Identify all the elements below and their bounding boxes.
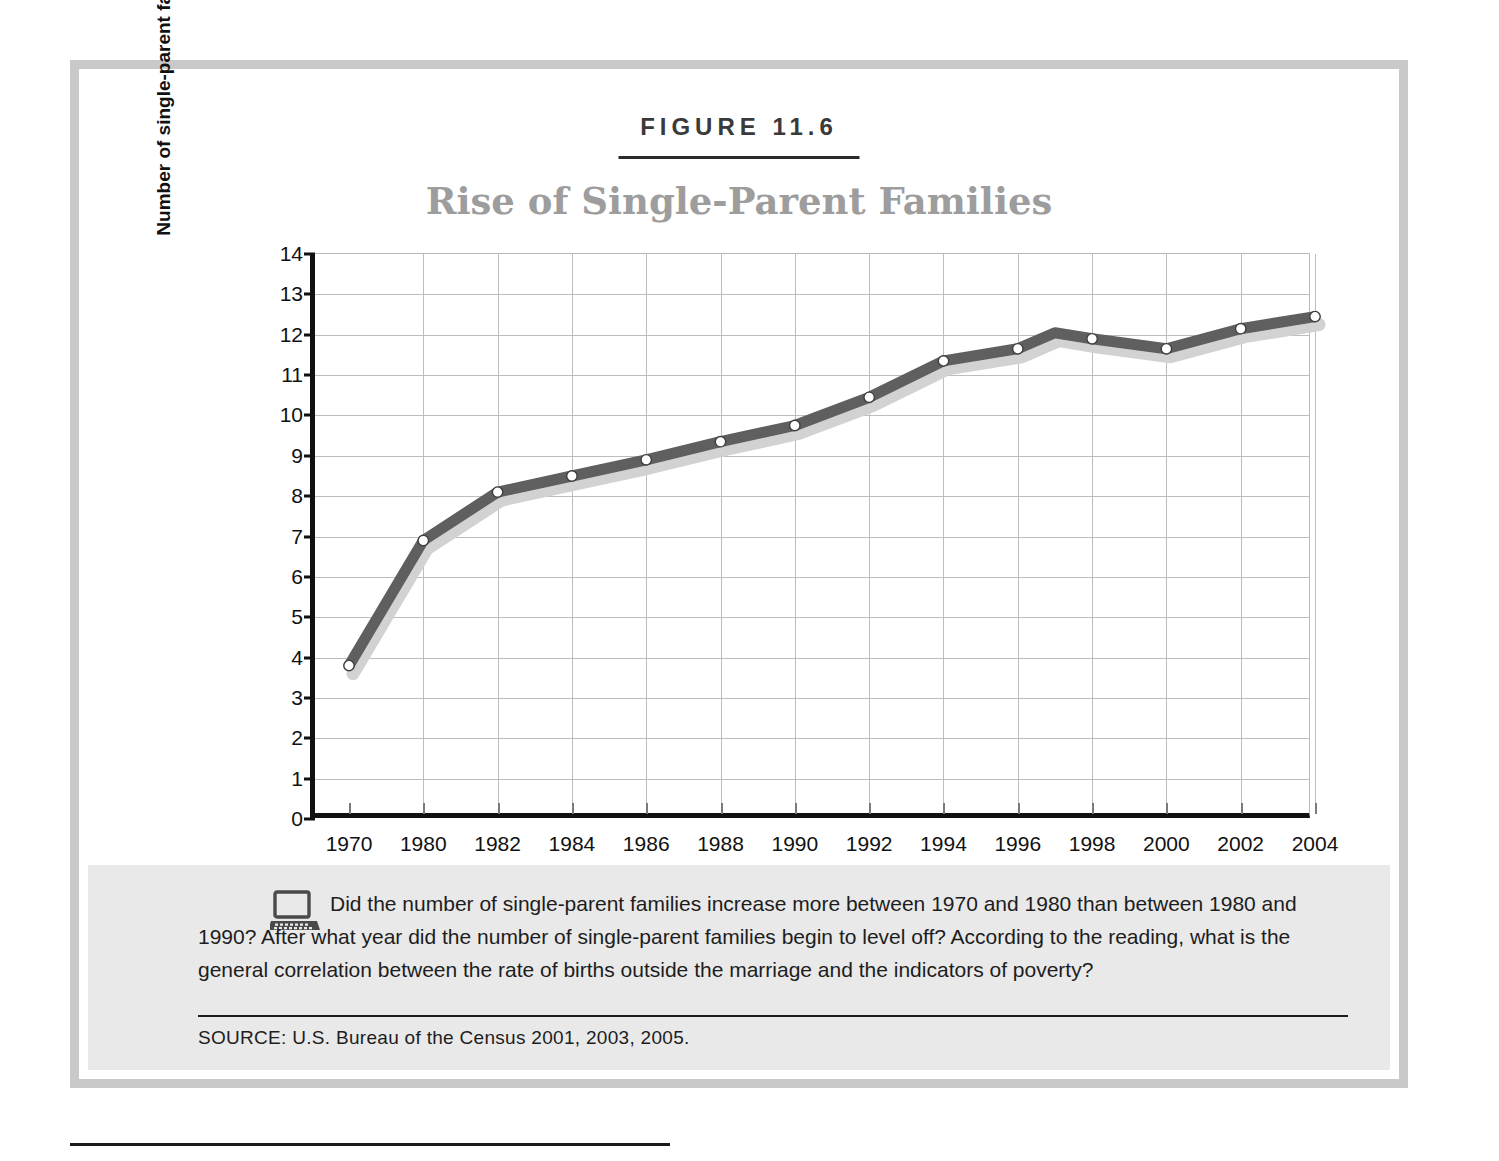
y-tick-label: 11: [223, 363, 303, 387]
x-tick-label: 1992: [846, 832, 893, 856]
source-divider: [198, 1015, 1348, 1017]
y-tick-label: 12: [223, 323, 303, 347]
data-point-marker: [1087, 334, 1097, 344]
chart-area: Number of single-parent families (millio…: [163, 245, 1343, 865]
y-tick-mark: [304, 616, 315, 619]
y-tick-mark: [304, 575, 315, 578]
figure-number-label: FIGURE 11.6: [79, 113, 1399, 141]
x-tick-label: 1994: [920, 832, 967, 856]
y-tick-label: 7: [223, 525, 303, 549]
y-tick-mark: [304, 454, 315, 457]
data-point-marker: [864, 392, 874, 402]
data-point-marker: [1310, 311, 1320, 321]
y-tick-label: 2: [223, 726, 303, 750]
y-tick-mark: [304, 495, 315, 498]
y-tick-mark: [304, 696, 315, 699]
data-point-marker: [715, 437, 725, 447]
y-tick-mark: [304, 253, 315, 256]
y-tick-mark: [304, 374, 315, 377]
figure-page: FIGURE 11.6 Rise of Single-Parent Famili…: [0, 0, 1499, 1161]
data-point-marker: [790, 420, 800, 430]
data-point-marker: [1236, 324, 1246, 334]
y-tick-mark: [304, 535, 315, 538]
x-tick-label: 1986: [623, 832, 670, 856]
x-tick-label: 1970: [326, 832, 373, 856]
x-tick-label: 1988: [697, 832, 744, 856]
x-tick-label: 1996: [994, 832, 1041, 856]
data-point-marker: [641, 455, 651, 465]
data-series-line: [315, 254, 1315, 819]
x-tick-label: 1980: [400, 832, 447, 856]
y-tick-label: 14: [223, 242, 303, 266]
y-tick-label: 0: [223, 807, 303, 831]
y-tick-mark: [304, 656, 315, 659]
page-bottom-rule: [70, 1143, 670, 1146]
figure-title-divider: [619, 156, 860, 159]
y-tick-label: 4: [223, 646, 303, 670]
data-point-marker: [1013, 344, 1023, 354]
plot-wrapper: 0123456789101112131419701980198219841986…: [310, 253, 1310, 818]
y-tick-label: 3: [223, 686, 303, 710]
x-tick-label: 2000: [1143, 832, 1190, 856]
data-point-marker: [492, 487, 502, 497]
gridline-vertical: [1315, 254, 1316, 813]
data-point-marker: [938, 356, 948, 366]
x-tick-label: 1998: [1069, 832, 1116, 856]
y-tick-label: 13: [223, 282, 303, 306]
series-shadow: [353, 325, 1319, 674]
y-axis-title: Number of single-parent families (millio…: [153, 0, 175, 293]
y-tick-mark: [304, 777, 315, 780]
y-tick-mark: [304, 293, 315, 296]
x-tick-label: 1982: [474, 832, 521, 856]
data-point-marker: [344, 660, 354, 670]
y-tick-label: 10: [223, 403, 303, 427]
x-tick-label: 1990: [771, 832, 818, 856]
y-tick-mark: [304, 333, 315, 336]
y-tick-mark: [304, 818, 315, 821]
y-tick-label: 8: [223, 484, 303, 508]
x-tick-mark: [1315, 803, 1317, 814]
x-tick-label: 1984: [549, 832, 596, 856]
figure-frame: FIGURE 11.6 Rise of Single-Parent Famili…: [70, 60, 1408, 1088]
y-tick-label: 5: [223, 605, 303, 629]
caption-question-text: Did the number of single-parent families…: [198, 887, 1348, 986]
y-tick-mark: [304, 414, 315, 417]
data-point-marker: [1161, 344, 1171, 354]
y-tick-label: 9: [223, 444, 303, 468]
x-tick-label: 2004: [1292, 832, 1339, 856]
y-tick-mark: [304, 737, 315, 740]
source-text: SOURCE: U.S. Bureau of the Census 2001, …: [198, 1027, 690, 1049]
x-tick-label: 2002: [1217, 832, 1264, 856]
data-point-marker: [418, 535, 428, 545]
y-tick-label: 6: [223, 565, 303, 589]
figure-title: Rise of Single-Parent Families: [79, 179, 1399, 223]
plot-canvas: 0123456789101112131419701980198219841986…: [310, 253, 1310, 818]
y-tick-label: 1: [223, 767, 303, 791]
data-point-marker: [567, 471, 577, 481]
caption-panel: Did the number of single-parent families…: [88, 865, 1390, 1070]
